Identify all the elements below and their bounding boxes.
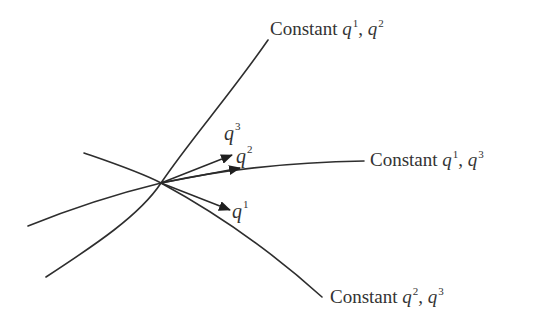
var-q: q [402,286,412,307]
var-q: q [232,200,242,222]
var-q: q [428,286,438,307]
separator: , [458,149,468,170]
superscript: 2 [247,143,253,155]
var-q: q [224,122,234,144]
superscript: 3 [235,120,241,132]
label-constant-q2-q3: Constant q2, q3 [330,286,444,306]
vector-q1-arrow [161,183,230,210]
label-prefix: Constant [330,286,398,307]
var-q: q [468,149,478,170]
superscript: 3 [478,148,484,160]
label-prefix: Constant [270,18,338,39]
var-q: q [442,149,452,170]
var-q: q [368,18,378,39]
label-prefix: Constant [370,149,438,170]
label-vector-q3: q3 [224,121,241,143]
separator: , [418,286,428,307]
curve-constant-q1-q3 [28,161,364,226]
label-vector-q1: q1 [232,199,249,221]
curve-constant-q1-q2 [46,40,268,277]
superscript: 2 [378,17,384,29]
label-vector-q2: q2 [236,144,253,166]
superscript: 3 [438,285,444,297]
var-q: q [342,18,352,39]
label-constant-q1-q3: Constant q1, q3 [370,149,484,169]
label-constant-q1-q2: Constant q1, q2 [270,18,384,38]
vector-q2-arrow [161,168,240,183]
separator: , [358,18,368,39]
var-q: q [236,145,246,167]
superscript: 1 [243,198,249,210]
